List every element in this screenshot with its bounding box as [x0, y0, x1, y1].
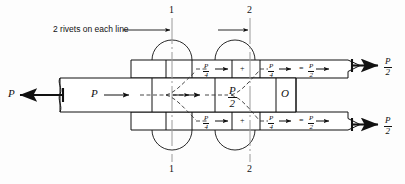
section-label-1-bottom: 1	[169, 164, 174, 174]
right-upper-external-force-label: P 2	[384, 57, 392, 77]
right-lower-external-force-arrow	[352, 118, 378, 131]
lower-sum-denominator: 2	[308, 124, 314, 131]
upper-sum-numerator: P	[308, 63, 314, 70]
right-upper-numerator: P	[384, 57, 392, 66]
right-upper-external-force-arrow	[352, 59, 378, 72]
lower-equals-operator: =	[299, 117, 304, 125]
section-label-2-bottom: 2	[247, 164, 252, 174]
lower-sum-numerator: P	[308, 115, 314, 122]
section-label-1-top: 1	[169, 5, 174, 15]
origin-label: O	[281, 88, 289, 99]
lower-second-numerator: P	[268, 115, 274, 122]
lower-second-denominator: 4	[268, 124, 274, 131]
plate-center-numerator: P	[228, 85, 237, 96]
upper-first-numerator: P	[203, 63, 209, 70]
rivets-note-label: 2 rivets on each line	[53, 25, 129, 34]
upper-sum-denominator: 2	[308, 72, 314, 79]
upper-strap-second-force-label: P 4	[268, 62, 274, 79]
upper-second-numerator: P	[268, 63, 274, 70]
plate-internal-force-label: P	[91, 88, 98, 99]
upper-second-denominator: 4	[268, 72, 274, 79]
plate-center-denominator: 2	[228, 98, 237, 109]
lower-first-numerator: P	[203, 115, 209, 122]
upper-first-denominator: 4	[203, 72, 209, 79]
lower-first-denominator: 4	[203, 124, 209, 131]
figure-canvas: 2 rivets on each line 1 2 1 2 P P P 2 P …	[0, 0, 405, 184]
lower-strap-second-force-label: P 4	[268, 114, 274, 131]
plate-center-force-label: P 2	[228, 85, 237, 109]
right-upper-denominator: 2	[384, 68, 392, 77]
left-external-force-label: P	[8, 88, 15, 99]
section-label-2-top: 2	[247, 5, 252, 15]
upper-equals-operator: =	[299, 65, 304, 73]
upper-plus-operator: +	[240, 65, 245, 73]
right-lower-numerator: P	[384, 116, 392, 125]
right-lower-denominator: 2	[384, 127, 392, 136]
upper-strap-sum-force-label: P 2	[308, 62, 314, 79]
lower-strap-sum-force-label: P 2	[308, 114, 314, 131]
left-external-force-arrow	[20, 88, 63, 102]
lower-strap-first-force-label: P 4	[203, 114, 209, 131]
right-lower-external-force-label: P 2	[384, 116, 392, 136]
upper-strap-first-force-label: P 4	[203, 62, 209, 79]
lower-plus-operator: +	[240, 117, 245, 125]
